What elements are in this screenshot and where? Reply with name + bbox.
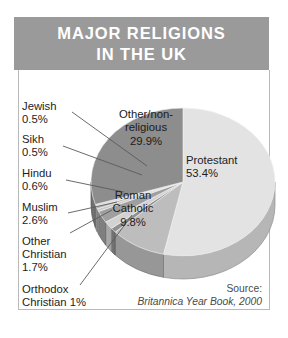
slice-label-roman-catholic-line-2: Catholic	[96, 202, 170, 215]
callout-hindu: Hindu 0.6%	[22, 167, 52, 193]
callout-sikh-name: Sikh	[22, 133, 48, 146]
slice-label-roman-catholic: Roman Catholic 9.8%	[96, 189, 170, 229]
source-block: Source: Britannica Year Book, 2000	[137, 283, 262, 308]
slice-label-other-non-religious: Other/non- religious 29.9%	[104, 108, 188, 148]
slice-label-other-non-religious-line-1: Other/non-	[104, 108, 188, 121]
callout-hindu-name: Hindu	[22, 167, 52, 180]
callout-sikh-value: 0.5%	[22, 146, 48, 159]
callout-jewish-value: 0.5%	[22, 113, 57, 126]
callout-orthodox-christian-value: Christian 1%	[22, 296, 86, 309]
source-citation: Britannica Year Book, 2000	[137, 296, 262, 309]
callout-muslim-name: Muslim	[22, 201, 58, 214]
slice-label-roman-catholic-line-1: Roman	[96, 189, 170, 202]
callout-jewish: Jewish 0.5%	[22, 100, 57, 126]
callout-sikh: Sikh 0.5%	[22, 133, 48, 159]
callout-other-christian-value: 1.7%	[22, 261, 67, 274]
slice-label-protestant-name: Protestant	[186, 154, 266, 167]
slice-label-roman-catholic-value: 9.8%	[96, 216, 170, 229]
slice-label-other-non-religious-value: 29.9%	[104, 135, 188, 148]
callout-other-christian: Other Christian 1.7%	[22, 235, 67, 274]
source-label: Source:	[137, 283, 262, 296]
callout-hindu-value: 0.6%	[22, 180, 52, 193]
callout-orthodox-christian: Orthodox Christian 1%	[22, 283, 86, 309]
callout-other-christian-name-2: Christian	[22, 248, 67, 261]
chart-title-line-1: MAJOR RELIGIONS	[57, 23, 225, 44]
slice-label-other-non-religious-line-2: religious	[104, 121, 188, 134]
callout-muslim: Muslim 2.6%	[22, 201, 58, 227]
callout-muslim-value: 2.6%	[22, 214, 58, 227]
slice-label-protestant: Protestant 53.4%	[186, 154, 266, 181]
callout-other-christian-name-1: Other	[22, 235, 67, 248]
figure-root: MAJOR RELIGIONS IN THE UK Protestant 53.…	[0, 0, 288, 338]
chart-title-line-2: IN THE UK	[96, 44, 187, 65]
chart-title-banner: MAJOR RELIGIONS IN THE UK	[14, 17, 269, 70]
callout-jewish-name: Jewish	[22, 100, 57, 113]
slice-label-protestant-value: 53.4%	[186, 167, 266, 180]
callout-orthodox-christian-name: Orthodox	[22, 283, 86, 296]
